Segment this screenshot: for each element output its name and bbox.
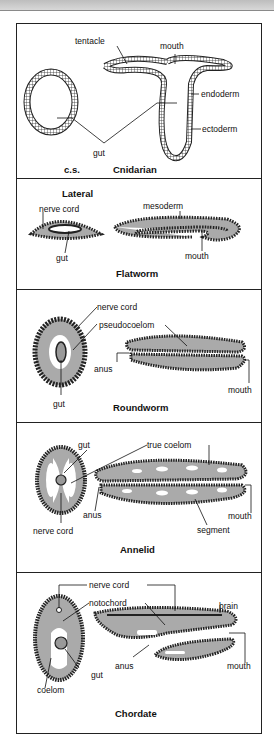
- panel-title-flatworm: Flatworm: [116, 268, 158, 279]
- panel-roundworm: nerve cord pseudocoelom anus gut mouth R…: [17, 290, 261, 423]
- label-lateral: Lateral: [62, 188, 93, 199]
- label-anus: anus: [83, 510, 101, 520]
- label-segment: segment: [197, 525, 230, 535]
- label-gut: gut: [78, 440, 90, 450]
- cnidarian-diagram: tentacle mouth endoderm ectoderm gut c.s…: [17, 24, 263, 179]
- label-gut: gut: [91, 670, 103, 680]
- label-anus: anus: [94, 364, 112, 374]
- label-gut: gut: [53, 399, 65, 409]
- label-notochord: notochord: [89, 598, 127, 608]
- label-nerve-cord: nerve cord: [89, 580, 129, 590]
- label-tentacle: tentacle: [75, 36, 105, 46]
- panel-flatworm: Lateral nerve cord mesoderm gut mouth Fl…: [17, 179, 261, 290]
- label-mouth: mouth: [228, 385, 252, 395]
- label-ectoderm: ectoderm: [202, 124, 237, 134]
- label-true-coelom: true coelom: [147, 440, 191, 450]
- panel-cnidarian: tentacle mouth endoderm ectoderm gut c.s…: [17, 24, 261, 179]
- body-plan-figure: tentacle mouth endoderm ectoderm gut c.s…: [16, 23, 262, 734]
- label-endoderm: endoderm: [201, 89, 239, 99]
- panel-annelid: gut true coelom anus nerve cord mouth se…: [17, 423, 261, 573]
- label-gut: gut: [93, 148, 105, 158]
- label-gut: gut: [56, 253, 68, 263]
- chordate-diagram: nerve cord notochord brain anus mouth gu…: [17, 573, 263, 735]
- label-nerve-cord: nerve cord: [33, 526, 73, 536]
- label-nerve-cord: nerve cord: [39, 204, 79, 214]
- panel-chordate: nerve cord notochord brain anus mouth gu…: [17, 573, 261, 735]
- panel-title-cnidarian: Cnidarian: [113, 164, 157, 175]
- panel-title-roundworm: Roundworm: [113, 402, 168, 413]
- annelid-diagram: gut true coelom anus nerve cord mouth se…: [17, 423, 263, 573]
- panel-title-chordate: Chordate: [115, 708, 157, 719]
- flatworm-diagram: Lateral nerve cord mesoderm gut mouth Fl…: [17, 179, 263, 290]
- panel-title-annelid: Annelid: [120, 544, 155, 555]
- label-coelom: coelom: [37, 685, 64, 695]
- label-mouth: mouth: [185, 251, 209, 261]
- label-mouth: mouth: [160, 41, 184, 51]
- label-nerve-cord: nerve cord: [97, 302, 137, 312]
- page-header-strip: [0, 0, 274, 11]
- label-mouth: mouth: [228, 511, 252, 521]
- label-anus: anus: [115, 661, 133, 671]
- label-mesoderm: mesoderm: [143, 201, 183, 211]
- roundworm-diagram: nerve cord pseudocoelom anus gut mouth R…: [17, 290, 263, 423]
- label-brain: brain: [219, 601, 238, 611]
- label-cs: c.s.: [64, 164, 80, 175]
- label-pseudocoelom: pseudocoelom: [99, 320, 154, 330]
- label-mouth: mouth: [227, 661, 251, 671]
